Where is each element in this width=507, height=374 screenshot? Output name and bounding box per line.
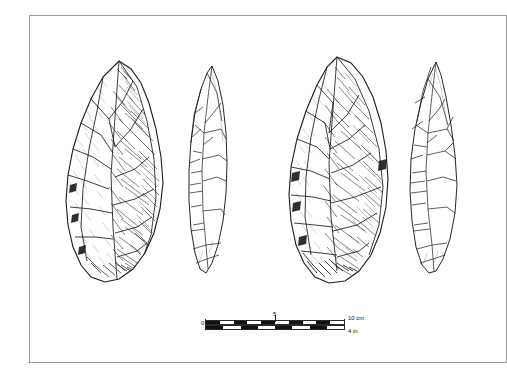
- scale-label-inches: 4 in: [348, 328, 358, 334]
- figure-handaxe-profile-right: [403, 59, 465, 281]
- scale-segment: [289, 321, 303, 324]
- scale-bar: 0 5 10 cm 4 in: [201, 311, 351, 339]
- scale-segment: [241, 326, 258, 329]
- scale-label-centimeters: 10 cm: [348, 315, 364, 321]
- scale-segment: [310, 326, 327, 329]
- scale-segment: [206, 326, 223, 329]
- scale-segment: [303, 321, 317, 324]
- scale-label-mid: 5: [273, 311, 276, 317]
- scale-segment: [261, 321, 275, 324]
- figure-handaxe-profile-left: [181, 63, 237, 281]
- figure-group: 0 5 10 cm 4 in: [29, 15, 494, 363]
- scale-segment: [275, 326, 292, 329]
- scale-segment: [292, 326, 309, 329]
- figure-handaxe-reverse: [279, 53, 397, 291]
- scale-segment: [206, 321, 220, 324]
- scale-segment: [220, 321, 234, 324]
- scale-segment: [330, 321, 344, 324]
- figure-handaxe-obverse: [57, 57, 172, 287]
- scale-segment: [258, 326, 275, 329]
- scale-segment: [327, 326, 344, 329]
- scale-segment: [247, 321, 261, 324]
- scale-segment: [234, 321, 248, 324]
- scale-label-zero: 0: [201, 320, 204, 326]
- scale-segment: [275, 321, 289, 324]
- scale-tick-start: [205, 319, 206, 327]
- scale-segment: [316, 321, 330, 324]
- scale-segment: [223, 326, 240, 329]
- scale-tick-end: [344, 319, 345, 328]
- scale-bar-inches: [205, 325, 345, 330]
